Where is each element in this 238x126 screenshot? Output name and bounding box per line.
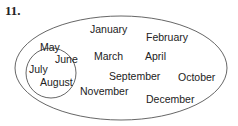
label-february: February: [146, 32, 188, 43]
label-january: January: [90, 24, 127, 35]
label-december: December: [146, 94, 194, 105]
label-october: October: [178, 72, 215, 83]
label-july: July: [29, 64, 48, 75]
label-may: May: [40, 42, 60, 53]
label-november: November: [80, 86, 128, 97]
label-march: March: [94, 51, 123, 62]
label-august: August: [40, 77, 73, 88]
label-september: September: [109, 71, 160, 82]
label-june: June: [55, 54, 78, 65]
label-april: April: [145, 51, 166, 62]
